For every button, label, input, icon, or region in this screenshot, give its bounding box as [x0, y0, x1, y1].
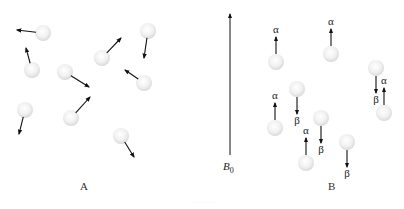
- nucleus: [57, 64, 89, 87]
- nucleus-alpha: α: [268, 23, 284, 70]
- nucleus-ball: [267, 120, 283, 136]
- spin-state-label: α: [381, 74, 387, 86]
- nucleus-ball: [298, 155, 314, 171]
- nucleus: [140, 23, 156, 58]
- nucleus-ball: [313, 110, 329, 126]
- spin-arrow-icon: [71, 76, 89, 87]
- nucleus-alpha: α: [323, 15, 339, 62]
- nucleus: [113, 128, 134, 157]
- nucleus-ball: [17, 102, 33, 118]
- spin-arrow-icon: [19, 117, 23, 134]
- spin-state-label: α: [272, 89, 278, 101]
- nucleus-ball: [376, 105, 392, 121]
- spin-state-label: β: [373, 93, 379, 105]
- spin-arrow-icon: [144, 38, 147, 58]
- nucleus: [125, 70, 152, 91]
- spin-arrow-icon: [125, 142, 134, 157]
- spin-state-label: α: [328, 15, 334, 27]
- nucleus-ball: [323, 46, 339, 62]
- nucleus: [94, 38, 121, 66]
- nucleus-ball: [35, 25, 51, 41]
- nucleus-ball: [140, 23, 156, 39]
- spin-state-label: β: [318, 143, 324, 155]
- nucleus-alpha: α: [267, 89, 283, 136]
- nucleus-ball: [24, 62, 40, 78]
- panel-b-aligned-spins: B0ααβαβαβαβ: [223, 14, 392, 179]
- nucleus-ball: [57, 64, 73, 80]
- spin-arrow-icon: [76, 97, 90, 113]
- spin-state-label: β: [344, 167, 350, 179]
- nucleus-ball: [289, 81, 305, 97]
- panel-a-label: A: [80, 180, 88, 192]
- nucleus: [17, 25, 51, 41]
- spin-state-label: β: [294, 114, 300, 126]
- spin-arrow-icon: [17, 30, 36, 32]
- nucleus-ball: [113, 128, 129, 144]
- faint-caption: · · · · · · · ·: [150, 199, 260, 205]
- nucleus-ball: [268, 54, 284, 70]
- nucleus: [63, 97, 90, 126]
- nucleus: [24, 48, 40, 78]
- nmr-spin-diagram: B0ααβαβαβαβ A B: [0, 0, 404, 209]
- nucleus-alpha: α: [298, 124, 314, 171]
- spin-arrow-icon: [125, 70, 138, 79]
- panel-b-label: B: [328, 180, 335, 192]
- panel-a-random-spins: [17, 23, 156, 157]
- nucleus-beta: β: [313, 110, 329, 155]
- nucleus-beta: β: [339, 134, 355, 179]
- spin-state-label: α: [303, 124, 309, 136]
- spin-arrow-icon: [26, 48, 30, 63]
- spin-arrow-icon: [107, 38, 121, 53]
- spin-state-label: α: [273, 23, 279, 35]
- b0-label: B0: [223, 160, 234, 175]
- nucleus-ball: [136, 75, 152, 91]
- nucleus-ball: [339, 134, 355, 150]
- nucleus-beta: β: [289, 81, 305, 126]
- nucleus: [17, 102, 33, 134]
